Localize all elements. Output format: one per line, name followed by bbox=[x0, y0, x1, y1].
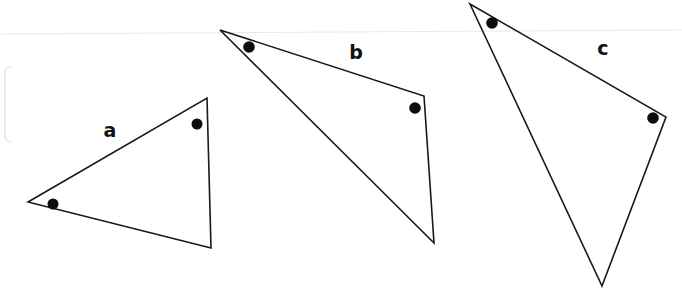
triangle-a-angle-dot-1 bbox=[48, 199, 59, 210]
triangle-b-angle-dot-2 bbox=[409, 102, 421, 114]
scan-horizontal-line bbox=[0, 30, 682, 34]
triangle-a-outline bbox=[28, 98, 211, 248]
triangle-c-group bbox=[470, 4, 666, 286]
scan-left-arc-top bbox=[5, 67, 11, 72]
triangle-a-label: a bbox=[104, 121, 117, 140]
geometry-worksheet: a b c bbox=[0, 0, 682, 296]
triangle-c-angle-dot-2 bbox=[647, 112, 659, 124]
scan-left-arc-bottom bbox=[5, 136, 11, 142]
scan-artifacts bbox=[0, 30, 682, 142]
triangle-c-angle-dot-1 bbox=[486, 17, 498, 29]
triangle-c-outline bbox=[470, 4, 666, 286]
triangle-b-group bbox=[220, 30, 434, 243]
triangle-c-label: c bbox=[597, 39, 608, 58]
triangle-a-group bbox=[28, 98, 211, 248]
triangles-figure bbox=[0, 0, 682, 296]
triangle-a-angle-dot-2 bbox=[192, 119, 203, 130]
triangle-b-outline bbox=[220, 30, 434, 243]
triangle-b-label: b bbox=[349, 43, 363, 62]
triangle-b-angle-dot-1 bbox=[243, 41, 255, 53]
